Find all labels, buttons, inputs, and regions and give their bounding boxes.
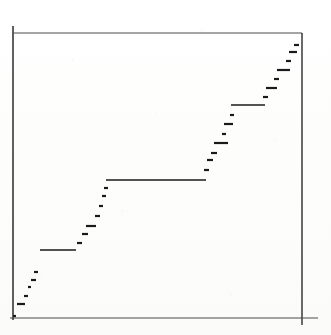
step-function-series: [13, 45, 299, 316]
plot-canvas: [0, 0, 331, 335]
axis-frame: [10, 26, 318, 325]
scanned-plot-figure: [0, 0, 331, 335]
